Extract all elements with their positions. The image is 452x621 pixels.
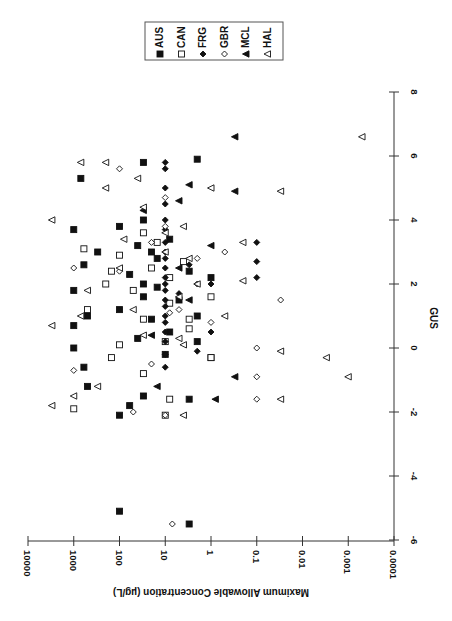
square-marker — [127, 271, 133, 277]
diamond-marker — [208, 281, 214, 287]
diamond-marker — [194, 348, 200, 354]
diamond-marker — [194, 255, 200, 261]
diamond-marker — [162, 364, 168, 370]
square-marker — [108, 268, 114, 274]
square-marker — [117, 508, 123, 514]
value-axis-label: Maximum Allowable Concentration (µg/L) — [113, 587, 309, 598]
diamond-marker — [162, 195, 168, 201]
triangle-marker — [102, 159, 109, 165]
gus-tick-label: 4 — [409, 217, 420, 223]
gus-tick-label: -2 — [409, 408, 420, 416]
square-marker — [140, 159, 146, 165]
square-marker — [186, 268, 192, 274]
legend-label: HAL — [262, 27, 273, 48]
diamond-marker — [208, 329, 214, 335]
gus-tick-label: -4 — [409, 472, 420, 481]
gus-tick-label: -6 — [409, 536, 420, 544]
triangle-marker — [70, 393, 77, 399]
triangle-marker — [180, 342, 187, 348]
triangle-marker — [94, 383, 101, 389]
square-marker — [71, 323, 77, 329]
value-tick-label: 0.1 — [251, 550, 262, 564]
square-marker — [140, 217, 146, 223]
diamond-marker — [254, 396, 260, 402]
diamond-marker — [117, 166, 123, 172]
gus-tick-label: 2 — [409, 281, 420, 286]
square-marker — [148, 249, 154, 255]
diamond-marker — [148, 361, 154, 367]
square-marker — [186, 396, 192, 402]
diamond-marker — [162, 217, 168, 223]
legend-label: FRG — [197, 27, 208, 48]
triangle-marker — [221, 313, 228, 319]
square-marker — [117, 307, 123, 313]
square-marker — [154, 284, 160, 290]
triangle-marker — [134, 175, 141, 181]
diamond-marker — [162, 265, 168, 271]
square-marker — [108, 355, 114, 361]
data-points — [48, 134, 365, 527]
triangle-marker — [180, 412, 187, 418]
value-tick-label: 10000 — [22, 550, 33, 576]
diamond-marker — [254, 275, 260, 281]
value-tick-label: 0.01 — [297, 550, 308, 569]
square-marker — [140, 316, 146, 322]
square-marker — [208, 275, 214, 281]
diamond-marker — [162, 287, 168, 293]
diamond-marker — [208, 319, 214, 325]
diamond-marker — [162, 281, 168, 287]
value-tick-label: 10 — [159, 550, 170, 561]
triangle-marker — [77, 159, 84, 165]
triangle-marker — [186, 182, 193, 188]
diamond-marker — [71, 367, 77, 373]
square-marker — [194, 339, 200, 345]
triangle-marker — [186, 297, 193, 303]
legend: AUSCANFRGGBRMCLHAL — [145, 22, 283, 60]
square-marker — [148, 316, 154, 322]
diamond-marker — [169, 521, 175, 527]
value-tick-label: 1 — [205, 550, 216, 556]
triangle-marker — [212, 396, 219, 402]
square-marker — [81, 364, 87, 370]
square-marker — [71, 287, 77, 293]
series-hal — [48, 134, 365, 419]
square-marker — [194, 156, 200, 162]
triangle-marker — [208, 242, 215, 248]
square-marker — [140, 371, 146, 377]
triangle-marker — [120, 236, 127, 242]
diamond-marker — [162, 185, 168, 191]
square-marker — [186, 316, 192, 322]
square-marker — [85, 313, 91, 319]
square-marker — [117, 223, 123, 229]
triangle-marker — [345, 374, 352, 380]
triangle-marker — [102, 185, 109, 191]
value-tick-label: 100 — [114, 550, 125, 566]
square-marker — [140, 294, 146, 300]
legend-label: MCL — [240, 26, 251, 48]
diamond-marker — [162, 159, 168, 165]
diamond-marker — [254, 345, 260, 351]
diamond-marker — [162, 319, 168, 325]
triangle-marker — [277, 396, 284, 402]
triangle-marker — [208, 185, 215, 191]
square-marker — [135, 335, 141, 341]
diamond-marker — [254, 239, 260, 245]
triangle-marker — [176, 198, 183, 204]
triangle-marker — [148, 332, 155, 338]
triangle-marker — [180, 223, 187, 229]
diamond-marker — [254, 259, 260, 265]
diamond-marker — [278, 297, 284, 303]
triangle-marker — [231, 134, 238, 140]
legend-label: CAN — [176, 26, 187, 48]
value-tick-label: 0.001 — [342, 550, 353, 574]
triangle-marker — [231, 374, 238, 380]
square-marker — [186, 326, 192, 332]
diamond-marker — [130, 409, 136, 415]
triangle-marker — [359, 134, 366, 140]
triangle-marker — [176, 265, 183, 271]
triangle-marker — [277, 348, 284, 354]
square-marker — [78, 175, 84, 181]
square-marker — [140, 281, 146, 287]
gus-axis-label: GUS — [428, 307, 439, 329]
triangle-marker — [154, 383, 161, 389]
